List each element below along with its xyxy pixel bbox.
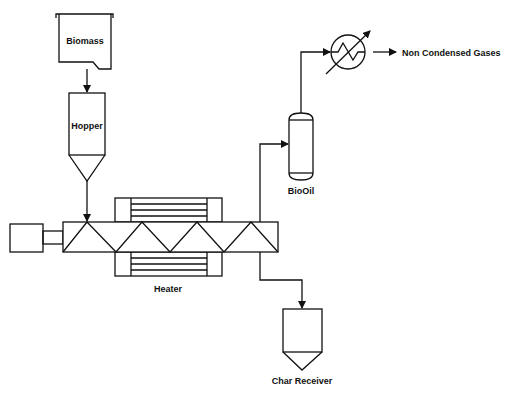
heater-bottom — [115, 252, 222, 276]
heater-label: Heater — [154, 284, 183, 294]
biomass-label: Biomass — [66, 36, 104, 46]
biooil-label: BioOil — [288, 186, 315, 196]
char-receiver-label: Char Receiver — [272, 376, 333, 386]
condenser — [326, 31, 370, 74]
screw-reactor — [63, 222, 278, 252]
biooil-to-condenser-line — [301, 52, 330, 113]
process-flow-diagram: Biomass Hopper Heater — [0, 0, 508, 393]
reactor-to-biooil-line — [260, 144, 288, 222]
reactor-to-char-line — [260, 252, 302, 308]
hopper-label: Hopper — [71, 121, 103, 131]
heater-top — [115, 198, 222, 222]
non-condensed-gases-label: Non Condensed Gases — [402, 48, 501, 58]
motor — [10, 224, 43, 252]
hopper: Hopper — [69, 93, 105, 181]
char-receiver: Char Receiver — [272, 309, 333, 386]
motor-coupler — [43, 231, 63, 244]
biomass-bin: Biomass — [56, 14, 113, 69]
biooil-separator: BioOil — [288, 113, 315, 196]
